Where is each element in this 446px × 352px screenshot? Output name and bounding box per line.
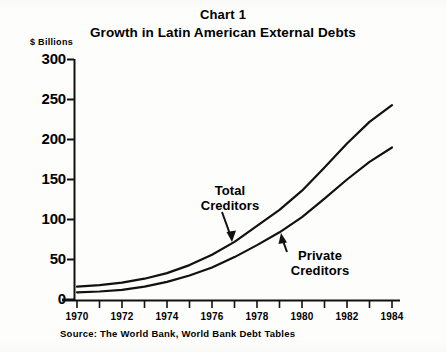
total-creditors-arrow: [222, 212, 236, 242]
annotation-total-creditors: Total Creditors: [195, 183, 265, 213]
source-note: Source: The World Bank, World Bank Debt …: [60, 328, 295, 339]
annotation-private-line1: Private: [280, 248, 360, 263]
annotation-private-line2: Creditors: [280, 263, 360, 278]
annotation-total-line2: Creditors: [195, 198, 265, 213]
y-axis-ticks: [62, 60, 74, 300]
annotation-total-line1: Total: [195, 183, 265, 198]
plot-area: [0, 0, 446, 352]
annotation-private-creditors: Private Creditors: [280, 248, 360, 278]
chart-figure: Chart 1 Growth in Latin American Externa…: [0, 0, 446, 352]
